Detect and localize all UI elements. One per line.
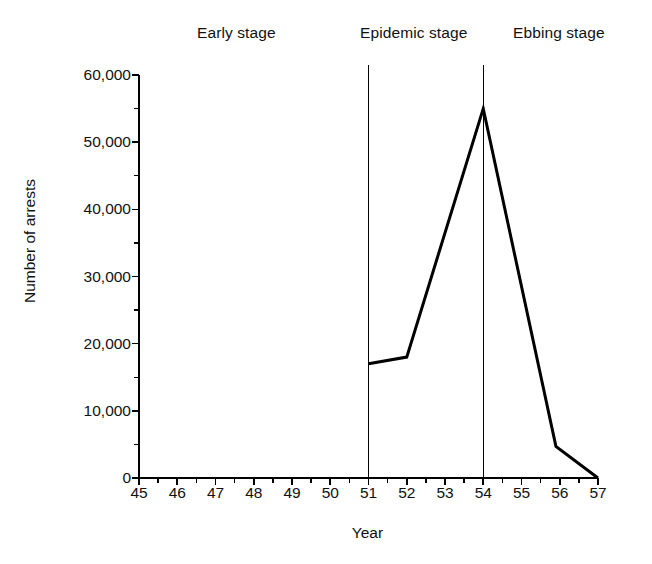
stage-divider-lines [369, 65, 484, 478]
y-axis-ticks [132, 75, 139, 478]
chart-figure: Early stage Epidemic stage Ebbing stage … [0, 0, 652, 564]
x-axis-ticks [139, 478, 598, 485]
plot-area [0, 0, 652, 564]
